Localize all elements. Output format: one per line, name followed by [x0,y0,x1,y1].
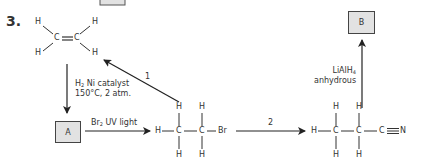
reagent-br2: Br [91,118,100,127]
atom-h: H [35,18,41,26]
atom-h: H [199,151,205,159]
atom-c: C [379,127,385,135]
bromination-conditions: Br2 UV light [91,118,137,128]
atom-h: H [155,127,161,135]
atom-c: C [199,127,205,135]
temperature-pressure: 150°C, 2 atm. [75,89,131,99]
atom-h: H [356,103,362,111]
atom-h: H [92,18,98,26]
anhydrous-text: anhydrous [314,76,356,86]
atom-c: C [333,127,339,135]
arrow-label-step2: 2 [268,119,273,127]
unknown-box-b: B [348,11,375,34]
atom-h: H [333,151,339,159]
atom-h: H [35,49,41,57]
unknown-box-a: A [55,121,81,143]
atom-h: H [356,151,362,159]
atom-c: C [356,127,362,135]
uv-light-text: UV light [103,118,137,127]
question-number: 3. [6,13,21,29]
atom-h: H [176,151,182,159]
atom-c: C [176,127,182,135]
atom-c: C [54,34,60,42]
atom-h: H [176,103,182,111]
reduction-conditions: LiAlH4 anhydrous [314,66,356,87]
arrow-label-step1: 1 [145,73,150,81]
hydrogenation-conditions: H2 Ni catalyst 150°C, 2 atm. [75,79,131,100]
atom-n: N [400,127,406,135]
atom-h: H [92,49,98,57]
atom-br: Br [218,127,227,135]
atom-h: H [199,103,205,111]
atom-c: C [74,34,80,42]
subscript: 4 [353,69,356,75]
atom-h: H [333,103,339,111]
catalyst-text: Ni catalyst [84,79,129,88]
atom-h: H [311,127,317,135]
reagent-lialh4: LiAlH [332,66,352,75]
